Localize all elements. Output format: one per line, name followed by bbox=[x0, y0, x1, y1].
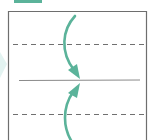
fold-down-arrow-icon bbox=[64, 16, 80, 79]
previous-step-arrow-hint bbox=[0, 52, 7, 78]
center-crease-line bbox=[19, 80, 140, 81]
fold-up-arrow-icon bbox=[65, 83, 80, 140]
diagram-canvas bbox=[0, 0, 156, 140]
fold-diagram bbox=[0, 0, 156, 140]
